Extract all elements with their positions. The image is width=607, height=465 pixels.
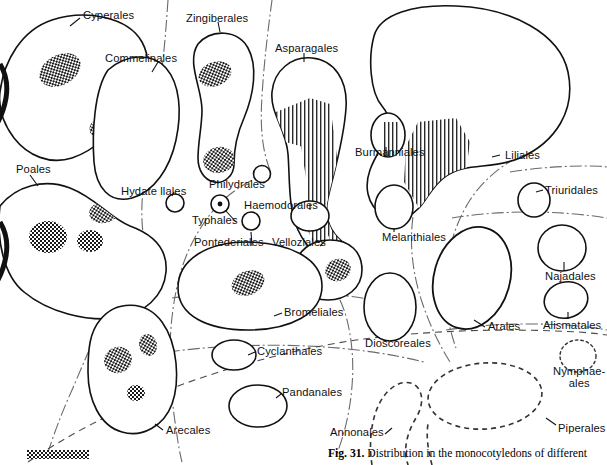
taxon-shape-zingiberales[interactable] (194, 33, 254, 182)
legend-stipple-swatch (27, 450, 89, 459)
taxon-shape-cyclanthales[interactable] (212, 340, 256, 370)
label-cyclanthales: Cyclanthales (257, 345, 322, 357)
taxon-shape-alismatales[interactable] (540, 277, 591, 323)
taxon-shape-najadales[interactable] (538, 225, 586, 271)
label-liliales: Liliales (505, 149, 540, 161)
label-annonales: Annonales (330, 426, 384, 438)
label-pontederiales: Pontederiales (194, 236, 264, 248)
label-melanthiales: Melanthiales (382, 231, 446, 243)
label-arecales: Arecales (166, 424, 210, 436)
label-asparagales: Asparagales (275, 42, 338, 54)
label-zingiberales: Zingiberales (186, 12, 248, 24)
label-haemodorales: Haemodorales (244, 199, 318, 211)
label-pandanales: Pandanales (282, 386, 342, 398)
label-poales: Poales (16, 163, 51, 175)
figure-caption: Fig. 31. Distribution in the monocotyled… (328, 447, 607, 460)
hatch-fill-liliales (404, 118, 470, 212)
label-najadales: Najadales (545, 270, 596, 282)
taxon-shape-arecales[interactable] (88, 305, 177, 433)
figure-number: Fig. 31. (328, 447, 364, 460)
label-cyperales: Cyperales (83, 9, 134, 21)
label-nymphaeales: Nymphae- ales (553, 366, 605, 389)
label-commelinales: Commelinales (105, 52, 177, 64)
taxon-shape-dioscoreales[interactable] (364, 273, 416, 341)
taxon-shape-commelinales[interactable] (93, 57, 179, 199)
label-arales: Arales (488, 320, 520, 332)
label-typhales: Typhales (192, 214, 238, 226)
figure-caption-text: Distribution in the monocotyledons of di… (364, 447, 587, 460)
label-piperales: Piperales (558, 422, 606, 434)
label-velloziales: Velloziales (272, 236, 326, 248)
taxon-shape-piperales[interactable] (426, 359, 544, 433)
taxon-shape-pontederiales[interactable] (242, 212, 260, 230)
label-hydatellales: Hydate llales (121, 185, 186, 197)
taxon-shape-typhales[interactable] (211, 195, 229, 213)
label-burmanniales: Burmanniales (355, 146, 425, 158)
figure-31: Cyperales Commelinales Zingiberales Aspa… (0, 0, 607, 465)
taxon-shape-melanthiales[interactable] (375, 185, 413, 229)
label-dioscoreales: Dioscoreales (365, 337, 431, 349)
taxon-shape-poales[interactable] (0, 184, 166, 319)
label-bromeliales: Bromeliales (284, 306, 344, 318)
taxon-shape-pandanales[interactable] (229, 385, 287, 427)
label-philydrales: Philydrales (209, 178, 265, 190)
taxon-shape-asparagales[interactable] (272, 58, 355, 266)
label-triuridales: Triuridales (545, 184, 598, 196)
label-alismatales: Alismatales (543, 319, 601, 331)
